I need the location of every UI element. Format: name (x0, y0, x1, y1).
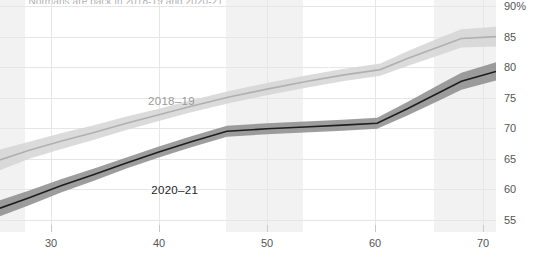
x-axis-tick-mark (483, 225, 484, 232)
y-axis-tick-label: 90% (504, 1, 526, 12)
y-axis-tick-label: 65 (504, 154, 516, 165)
x-axis-tick-label: 40 (153, 238, 165, 249)
y-axis-tick-label: 85 (504, 32, 516, 43)
series-label-2020-21: 2020–21 (151, 184, 198, 196)
y-axis-tick-label: 80 (504, 62, 516, 73)
x-axis-tick-mark (159, 225, 160, 232)
x-axis-tick-label: 60 (369, 238, 381, 249)
y-axis-tick-label: 75 (504, 93, 516, 104)
x-axis-tick-label: 50 (261, 238, 273, 249)
y-axis-tick-label: 55 (504, 215, 516, 226)
series-label-2018-19: 2018–19 (148, 95, 195, 107)
x-axis-tick-mark (375, 225, 376, 232)
x-axis-tick-mark (267, 225, 268, 232)
series-svg (0, 0, 496, 232)
y-axis-tick-label: 60 (504, 184, 516, 195)
x-axis-tick-label: 30 (45, 238, 57, 249)
x-axis-tick-mark (51, 225, 52, 232)
x-axis-tick-label: 70 (477, 238, 489, 249)
y-axis-tick-label: 70 (504, 123, 516, 134)
chart-container: The Normans are back in 2018-19 and 2020… (0, 0, 542, 266)
plot-area (0, 0, 496, 232)
